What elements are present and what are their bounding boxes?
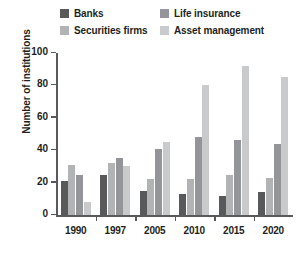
bar bbox=[187, 179, 194, 215]
x-tick-mark bbox=[254, 216, 256, 221]
bar bbox=[100, 175, 107, 216]
x-tick-label: 1990 bbox=[65, 225, 86, 236]
x-tick-label: 2010 bbox=[184, 225, 205, 236]
legend-swatch-securities-firms bbox=[60, 26, 69, 35]
bar bbox=[195, 137, 202, 215]
legend-item-securities-firms: Securities firms bbox=[60, 23, 160, 38]
chart-legend: Banks Life insurance Securities firms As… bbox=[60, 6, 300, 38]
bar bbox=[68, 165, 75, 215]
y-tick-mark bbox=[51, 116, 56, 118]
plot-area: 020406080100 199019972005201020152020 bbox=[56, 53, 293, 215]
x-tick-label: 2015 bbox=[223, 225, 244, 236]
bar bbox=[84, 202, 91, 215]
y-tick-mark bbox=[51, 52, 56, 54]
bar bbox=[140, 191, 147, 215]
bar bbox=[179, 194, 186, 215]
y-tick-label: 20 bbox=[37, 176, 48, 187]
y-tick-mark bbox=[51, 149, 56, 151]
y-tick-mark bbox=[51, 84, 56, 86]
x-tick-mark bbox=[135, 216, 137, 221]
legend-swatch-life-insurance bbox=[160, 9, 169, 18]
legend-swatch-banks bbox=[60, 9, 69, 18]
y-tick-label: 0 bbox=[42, 208, 48, 219]
bar bbox=[234, 140, 241, 215]
bar bbox=[202, 85, 209, 215]
x-tick-mark bbox=[214, 216, 216, 221]
bar bbox=[266, 178, 273, 215]
legend-swatch-asset-management bbox=[160, 26, 169, 35]
bar bbox=[155, 149, 162, 215]
bar bbox=[258, 192, 265, 215]
bar bbox=[147, 179, 154, 215]
x-tick-mark bbox=[96, 216, 98, 221]
y-tick-label: 80 bbox=[37, 78, 48, 89]
x-tick-label: 1997 bbox=[105, 225, 126, 236]
bar bbox=[219, 196, 226, 215]
bar bbox=[61, 181, 68, 215]
bar-chart: Banks Life insurance Securities firms As… bbox=[0, 0, 305, 261]
y-tick-mark bbox=[51, 181, 56, 183]
y-tick-label: 60 bbox=[37, 111, 48, 122]
legend-label-securities-firms: Securities firms bbox=[74, 25, 147, 36]
y-tick-mark bbox=[51, 214, 56, 216]
legend-label-asset-management: Asset management bbox=[174, 25, 264, 36]
bar bbox=[274, 144, 281, 215]
x-tick-mark bbox=[175, 216, 177, 221]
legend-item-asset-management: Asset management bbox=[160, 23, 300, 38]
legend-label-life-insurance: Life insurance bbox=[174, 8, 240, 19]
bar bbox=[76, 175, 83, 216]
x-tick-label: 2020 bbox=[263, 225, 284, 236]
y-tick-label: 40 bbox=[37, 143, 48, 154]
legend-item-life-insurance: Life insurance bbox=[160, 6, 300, 21]
bar bbox=[163, 142, 170, 215]
bar bbox=[116, 158, 123, 215]
y-axis-line bbox=[56, 53, 58, 215]
bar bbox=[242, 66, 249, 215]
legend-label-banks: Banks bbox=[74, 8, 104, 19]
y-tick-label: 100 bbox=[31, 46, 48, 57]
legend-item-banks: Banks bbox=[60, 6, 160, 21]
bar bbox=[108, 163, 115, 215]
bar bbox=[281, 77, 288, 215]
y-axis-title: Number of institutions bbox=[21, 2, 32, 162]
bar bbox=[226, 175, 233, 216]
bar bbox=[123, 166, 130, 215]
x-tick-label: 2005 bbox=[144, 225, 165, 236]
